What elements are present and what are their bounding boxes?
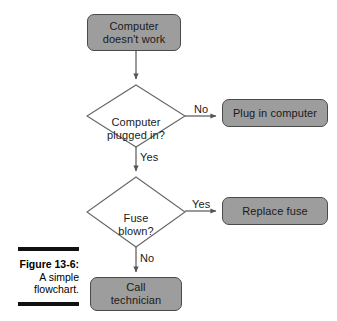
figure-caption: Figure 13-6: A simple flowchart. bbox=[18, 247, 79, 306]
caption-text-line-2: flowchart. bbox=[18, 283, 79, 296]
decision-shape-plugged bbox=[87, 85, 185, 147]
flow-node-replace-fuse[interactable]: Replace fuse bbox=[222, 197, 328, 225]
flow-node-label: Replace fuse bbox=[239, 205, 310, 218]
figure-canvas: Computer doesn't work Computer plugged i… bbox=[0, 0, 337, 321]
flow-node-plug-in-computer[interactable]: Plug in computer bbox=[222, 99, 328, 127]
edge-label-plugged-no: No bbox=[194, 103, 208, 115]
flow-node-label: Plug in computer bbox=[230, 107, 320, 120]
caption-figure-number: Figure 13-6: bbox=[18, 258, 79, 271]
flow-node-label: Call technician bbox=[108, 281, 165, 307]
edge-label-fuse-no: No bbox=[140, 252, 154, 264]
edge-label-fuse-yes: Yes bbox=[192, 198, 210, 210]
flow-node-call-technician[interactable]: Call technician bbox=[90, 277, 182, 311]
flow-node-label: Computer doesn't work bbox=[100, 20, 169, 46]
caption-rule-bottom bbox=[18, 302, 79, 306]
caption-rule-top bbox=[18, 247, 79, 251]
decision-shape-fuse bbox=[87, 177, 185, 247]
edge-label-plugged-yes: Yes bbox=[140, 151, 158, 163]
caption-text-line-1: A simple bbox=[18, 271, 79, 284]
flow-node-computer-doesnt-work[interactable]: Computer doesn't work bbox=[87, 14, 181, 51]
